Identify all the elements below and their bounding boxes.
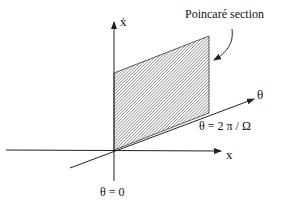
- section-pointer-arrow: [214, 29, 232, 60]
- xdot-axis-label: ẋ: [120, 14, 127, 29]
- theta-zero-label: θ = 0: [100, 185, 125, 199]
- poincare-diagram: ẋ x θ Poincaré section θ = 0 θ = 2 π / Ω: [0, 0, 282, 202]
- theta-axis-label: θ: [257, 87, 263, 102]
- poincare-section-plane: [114, 36, 209, 150]
- x-axis: [6, 150, 221, 151]
- x-axis-label: x: [226, 147, 233, 162]
- theta-period-label: θ = 2 π / Ω: [199, 119, 251, 133]
- poincare-section-label: Poincaré section: [185, 7, 264, 21]
